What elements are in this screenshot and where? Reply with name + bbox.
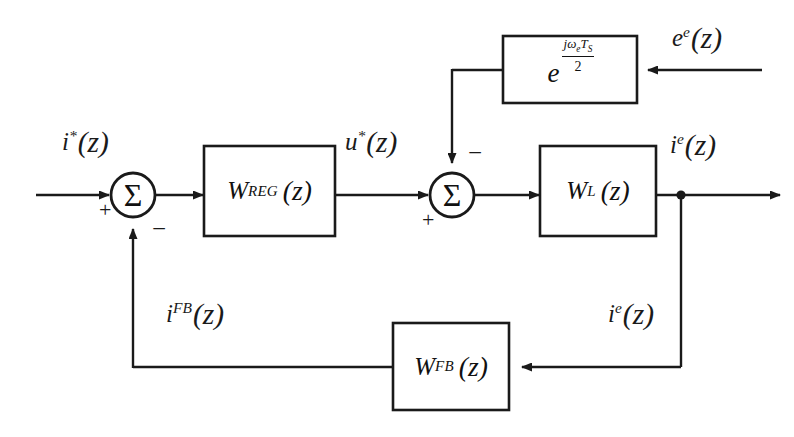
block-label-feedback-arg: (z) [454, 351, 488, 383]
summer-1-sign-minus: − [152, 216, 166, 241]
delay-exponent-denominator: 2 [562, 57, 595, 76]
summer-2-sign-plus: + [422, 209, 434, 231]
measured-current-sup: e [615, 299, 622, 316]
output-current-var: i [670, 131, 677, 158]
signal-label-control-voltage: u*(z) [345, 128, 398, 158]
block-label-feedback-main: W [414, 353, 435, 381]
block-label-delay: e jωeTS 2 [503, 36, 637, 103]
signal-label-back-emf: ee(z) [672, 24, 723, 54]
delay-exponent-fraction: jωeTS 2 [562, 37, 595, 75]
delay-exponent-omega: ω [567, 36, 576, 51]
output-current-arg: (z) [684, 129, 717, 161]
block-label-load-arg: (z) [596, 175, 630, 207]
reference-current-sup: * [69, 127, 77, 144]
block-label-regulator-sub: REG [248, 183, 278, 200]
feedback-current-arg: (z) [192, 298, 225, 330]
block-label-feedback: WFB(z) [393, 323, 509, 410]
signal-label-output-current: ie(z) [670, 131, 717, 161]
block-label-feedback-sub: FB [435, 358, 454, 375]
delay-exponent-T: T [581, 36, 588, 51]
block-label-load: WL(z) [540, 146, 656, 236]
signal-label-measured-current: ie(z) [608, 300, 655, 330]
block-label-load-main: W [566, 177, 587, 205]
feedback-current-var: i [166, 300, 173, 327]
reference-current-arg: (z) [77, 126, 110, 158]
back-emf-var: e [672, 24, 683, 51]
feedback-current-sup: FB [173, 299, 192, 316]
block-diagram-canvas: WREG(z) WL(z) WFB(z) e jωeTS 2 Σ Σ + − +… [0, 0, 794, 437]
measured-current-var: i [608, 300, 615, 327]
block-label-regulator-main: W [227, 177, 248, 205]
summer-1-sign-plus: + [99, 199, 111, 221]
control-voltage-var: u [345, 128, 358, 155]
summer-2-sigma: Σ [443, 177, 462, 214]
block-label-regulator-arg: (z) [278, 175, 312, 207]
summer-glyph-2: Σ [430, 173, 474, 217]
signal-label-feedback-current: iFB(z) [166, 300, 225, 330]
summer-2-sign-minus: − [468, 140, 482, 165]
delay-base-e: e [548, 60, 560, 87]
delay-exponent-T-sub: S [588, 44, 593, 54]
reference-current-var: i [62, 128, 69, 155]
summer-glyph-1: Σ [111, 173, 155, 217]
block-label-regulator: WREG(z) [204, 146, 335, 236]
measured-current-arg: (z) [622, 298, 655, 330]
delay-exponent-numerator: jωeTS [562, 37, 595, 56]
back-emf-arg: (z) [690, 22, 723, 54]
summer-1-sigma: Σ [124, 177, 143, 214]
control-voltage-arg: (z) [365, 126, 398, 158]
block-label-load-sub: L [587, 183, 596, 200]
output-current-sup: e [677, 130, 684, 147]
back-emf-sup: e [683, 23, 690, 40]
signal-label-reference-current: i*(z) [62, 128, 110, 158]
